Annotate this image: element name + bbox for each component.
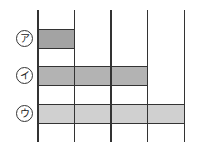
gridline-3 bbox=[147, 10, 149, 142]
category-label-a: ア bbox=[16, 30, 33, 47]
gridline-2 bbox=[110, 10, 112, 142]
gridline-1 bbox=[74, 10, 76, 142]
category-label-u: ウ bbox=[16, 105, 33, 122]
gridline-4 bbox=[184, 10, 186, 142]
bar-u bbox=[38, 104, 185, 124]
bar-chart: ア イ ウ bbox=[0, 0, 197, 149]
category-label-i: イ bbox=[16, 67, 33, 84]
bar-i bbox=[38, 66, 148, 86]
bar-a bbox=[38, 29, 75, 49]
gridline-0 bbox=[37, 10, 39, 142]
